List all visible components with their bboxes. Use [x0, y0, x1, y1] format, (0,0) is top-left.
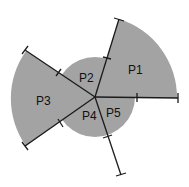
label-p1: P1 [128, 63, 143, 77]
label-p5: P5 [106, 106, 121, 120]
label-p4: P4 [82, 109, 97, 123]
label-p3: P3 [36, 94, 51, 108]
label-p2: P2 [79, 71, 94, 85]
partition-diagram: P1 P2 P3 P4 P5 [0, 0, 189, 187]
